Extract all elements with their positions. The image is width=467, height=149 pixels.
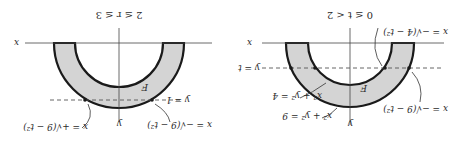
left-intersection-dot bbox=[150, 98, 154, 102]
right-dashed-label: y = t bbox=[238, 63, 261, 73]
right-top-label: x = −√(4 − t²) bbox=[383, 27, 448, 37]
polar-region-figure: 2 ≤ r ≤ 3 x y F y = 1 x = −√(9 − t²) x =… bbox=[0, 0, 467, 149]
right-intersection-dot bbox=[313, 66, 317, 70]
right-panel: 0 ≤ t < 2 x y F y = t x = −√(4 − t²) x =… bbox=[238, 10, 448, 129]
right-outer-circle-label: x² + y² = 9 bbox=[282, 111, 332, 121]
right-region-label: F bbox=[360, 83, 368, 93]
right-intersection-dot bbox=[289, 66, 293, 70]
left-region-label: F bbox=[141, 82, 149, 92]
right-x-axis-label: x bbox=[247, 38, 252, 48]
right-leader-arrow bbox=[375, 28, 382, 66]
left-dashed-label: y = 1 bbox=[166, 95, 191, 105]
left-leader-arrow bbox=[155, 104, 170, 122]
left-y-axis-label: y bbox=[116, 119, 123, 129]
left-curve-label-right: x = −√(9 − t²) bbox=[147, 120, 212, 130]
right-side-label: x = −√(9 − t²) bbox=[383, 104, 448, 114]
left-caption: 2 ≤ r ≤ 3 bbox=[96, 10, 143, 21]
right-intersection-dot bbox=[407, 66, 411, 70]
left-x-axis-label: x bbox=[14, 38, 19, 48]
left-intersection-dot bbox=[83, 98, 87, 102]
right-leader-arrow bbox=[412, 72, 421, 102]
right-y-axis-label: y bbox=[347, 119, 354, 129]
left-panel: 2 ≤ r ≤ 3 x y F y = 1 x = −√(9 − t²) x =… bbox=[14, 10, 212, 132]
left-curve-label-left: x = +√(9 − t²) bbox=[23, 122, 88, 132]
right-intersection-dot bbox=[383, 66, 387, 70]
right-caption: 0 ≤ t < 2 bbox=[327, 10, 373, 21]
right-inner-circle-label: x² + y² = 4 bbox=[272, 91, 322, 101]
